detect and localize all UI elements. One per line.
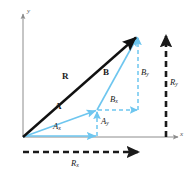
- y-axis-label: y: [27, 8, 30, 15]
- vector-r-label: R: [62, 72, 69, 81]
- component-ry-label: Ry: [170, 78, 178, 88]
- component-ay-label: Ay: [101, 117, 109, 127]
- component-by-label: By: [141, 68, 149, 78]
- vector-diagram-canvas: [0, 0, 192, 182]
- vector-a-label: A: [55, 102, 62, 111]
- vector-addition-figure: y x R A B Ax Ay Bx By Rx Ry: [0, 0, 192, 182]
- component-bx-label: Bx: [110, 95, 118, 105]
- vector-r-arrow: [23, 38, 136, 138]
- component-rx-label: Rx: [71, 159, 79, 169]
- component-ax-label: Ax: [53, 122, 61, 132]
- x-axis-label: x: [180, 131, 183, 138]
- vector-b-label: B: [103, 68, 109, 77]
